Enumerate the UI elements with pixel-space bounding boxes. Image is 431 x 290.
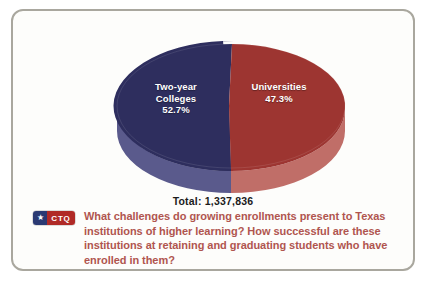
texas-flag-icon: ★ bbox=[33, 211, 47, 225]
ctq-question-text: What challenges do growing enrollments p… bbox=[84, 209, 397, 267]
star-icon: ★ bbox=[37, 214, 44, 222]
pie-chart-svg bbox=[111, 33, 351, 193]
figure-frame: Two-year Colleges 52.7% Universities 47.… bbox=[11, 9, 415, 271]
chart-total-label: Total: 1,337,836 bbox=[13, 195, 413, 207]
pie-chart-3d: Two-year Colleges 52.7% Universities 47.… bbox=[111, 33, 351, 193]
ctq-badge-label: CTQ bbox=[47, 211, 75, 225]
ctq-badge: ★ CTQ bbox=[33, 211, 75, 225]
critical-thinking-question-block: ★ CTQ What challenges do growing enrollm… bbox=[33, 209, 397, 267]
